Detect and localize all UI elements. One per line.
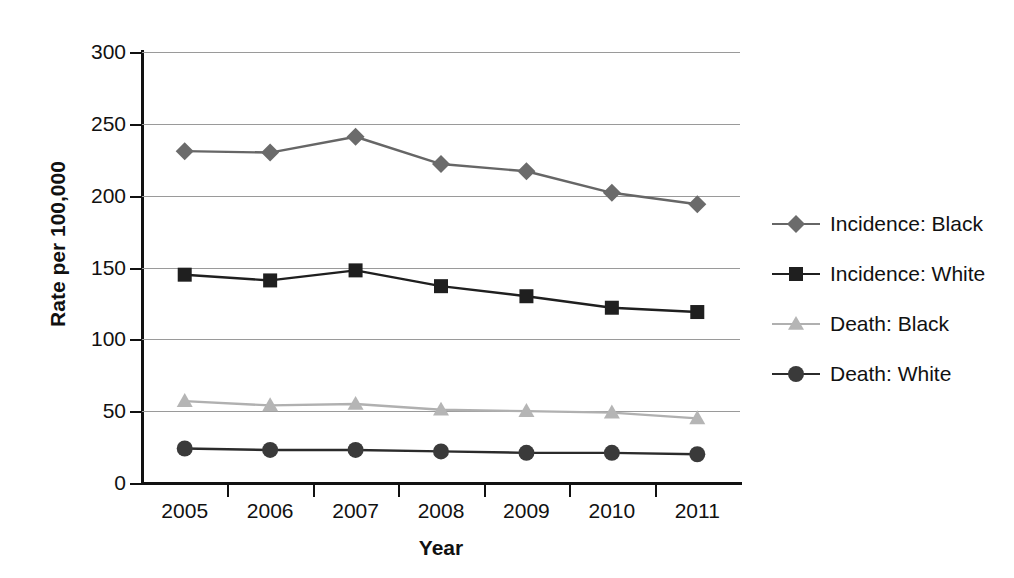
legend-item: Death: Black [772,306,1008,342]
y-axis-tick-label: 100 [56,328,126,349]
x-axis-tick-label: 2009 [486,500,566,522]
data-point [348,442,364,458]
x-axis-tick-label: 2007 [316,500,396,522]
data-point [347,128,365,146]
x-axis-tick [655,485,657,497]
legend-symbol [784,211,808,237]
y-axis-tick-label: 200 [56,185,126,206]
data-point [688,195,706,213]
y-axis-tick [130,411,141,413]
data-point [178,268,192,282]
y-axis-tick [130,196,141,198]
legend-label: Incidence: White [830,262,985,286]
y-axis-tick-label: 150 [56,257,126,278]
chart-legend: Incidence: BlackIncidence: WhiteDeath: B… [772,206,1008,406]
y-axis-tick-label: 300 [56,41,126,62]
data-point [349,263,363,277]
x-axis-tick [227,485,229,497]
y-axis-tick [130,483,141,485]
data-point [519,289,533,303]
x-axis-tick-label: 2006 [230,500,310,522]
legend-item: Incidence: Black [772,206,1008,242]
legend-label: Death: White [830,362,951,386]
legend-symbol [784,261,808,287]
y-axis-tick [130,52,141,54]
legend-item: Incidence: White [772,256,1008,292]
data-series-layer [142,52,740,483]
data-point [603,184,621,202]
data-point [176,142,194,160]
legend-symbol [784,311,808,337]
data-point [261,144,279,162]
x-axis-tick [484,485,486,497]
data-point [433,443,449,459]
x-axis-tick-label: 2005 [145,500,225,522]
legend-label: Death: Black [830,312,949,336]
data-point [517,162,535,180]
x-axis-tick-label: 2008 [401,500,481,522]
y-axis-tick-label: 0 [56,472,126,493]
y-axis-tick [130,339,141,341]
y-axis-tick-label: 50 [56,400,126,421]
x-axis-tick [569,485,571,497]
legend-marker-circle-icon [772,361,820,387]
data-point [604,445,620,461]
data-point [432,155,450,173]
series-death-black [177,393,706,424]
y-axis-tick-label: 250 [56,113,126,134]
x-axis-tick [398,485,400,497]
data-point [689,446,705,462]
data-point [434,279,448,293]
legend-label: Incidence: Black [830,212,983,236]
chart-figure: Rate per 100,000 05010015020025030020052… [0,0,1014,578]
x-axis-title: Year [142,536,740,560]
data-point [177,441,193,457]
data-point [263,273,277,287]
data-point [518,445,534,461]
x-axis-tick [313,485,315,497]
y-axis-tick [130,124,141,126]
x-axis-tick-label: 2010 [572,500,652,522]
data-point [262,442,278,458]
series-incidence-white [178,263,705,319]
data-point [177,393,193,407]
x-axis-tick-label: 2011 [657,500,737,522]
legend-item: Death: White [772,356,1008,392]
legend-marker-diamond-icon [772,211,820,237]
series-death-white [177,441,706,463]
legend-marker-triangle-icon [772,311,820,337]
data-point [605,301,619,315]
series-incidence-black [176,128,707,214]
legend-marker-square-icon [772,261,820,287]
legend-symbol [784,361,808,387]
data-point [690,305,704,319]
y-axis-tick [130,268,141,270]
